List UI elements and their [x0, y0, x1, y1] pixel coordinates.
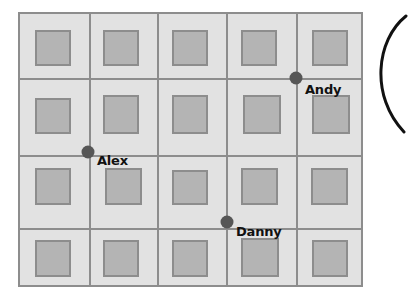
block-r2-c4 — [243, 95, 281, 134]
block-r3-c1 — [35, 168, 71, 205]
grid-map — [18, 12, 363, 287]
block-r3-c4 — [241, 168, 278, 205]
grid-line-horizontal-1 — [20, 78, 361, 80]
block-r4-c2 — [103, 240, 139, 277]
grid-line-vertical-4 — [296, 14, 298, 285]
block-r3-c3 — [172, 170, 208, 205]
grid-line-horizontal-2 — [20, 155, 361, 157]
block-r4-c3 — [172, 240, 208, 277]
block-r1-c1 — [35, 30, 71, 66]
label-danny: Danny — [236, 224, 282, 239]
marker-andy[interactable] — [290, 72, 303, 85]
block-r2-c1 — [35, 98, 71, 134]
grid-line-horizontal-3 — [20, 228, 361, 230]
label-andy: Andy — [305, 82, 341, 97]
block-r1-c5 — [312, 30, 348, 66]
arc-path — [381, 16, 406, 132]
block-r4-c4 — [241, 238, 279, 277]
block-r2-c5 — [312, 95, 350, 134]
grid-line-vertical-3 — [226, 14, 228, 285]
block-r2-c2 — [103, 95, 139, 134]
block-r1-c4 — [241, 30, 277, 66]
marker-alex[interactable] — [82, 146, 95, 159]
block-r1-c3 — [172, 30, 208, 66]
block-r1-c2 — [103, 30, 139, 66]
block-r3-c5 — [311, 168, 348, 205]
grid-line-vertical-2 — [157, 14, 159, 285]
label-alex: Alex — [97, 153, 128, 168]
marker-danny[interactable] — [221, 216, 234, 229]
block-r4-c1 — [35, 240, 71, 277]
block-r3-c2 — [105, 168, 142, 205]
block-r2-c3 — [172, 95, 208, 134]
circle-edge-arc — [360, 14, 412, 134]
block-r4-c5 — [312, 240, 348, 277]
